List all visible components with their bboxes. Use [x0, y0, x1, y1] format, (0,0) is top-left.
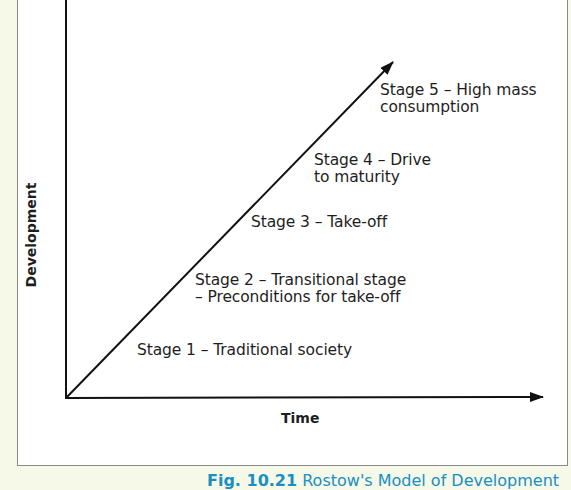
x-axis — [65, 397, 543, 398]
stage-4-line2: to maturity — [314, 169, 431, 186]
stage-3-label: Stage 3 – Take-off — [251, 214, 387, 231]
caption-text: Rostow's Model of Development — [302, 471, 559, 490]
stage-4-label: Stage 4 – Drive to maturity — [314, 152, 431, 186]
stage-1-label: Stage 1 – Traditional society — [137, 342, 352, 359]
stage-5-label: Stage 5 – High mass consumption — [380, 82, 537, 116]
stage-1-line1: Stage 1 – Traditional society — [137, 342, 352, 359]
stage-2-label: Stage 2 – Transitional stage – Precondit… — [195, 272, 406, 306]
stage-5-line1: Stage 5 – High mass — [380, 82, 537, 99]
figure-caption: Fig. 10.21 Rostow's Model of Development — [207, 471, 559, 490]
stage-3-line1: Stage 3 – Take-off — [251, 214, 387, 231]
y-axis-label: Development — [23, 183, 39, 288]
stage-2-line2: – Preconditions for take-off — [195, 289, 406, 306]
x-axis-label: Time — [281, 410, 319, 426]
stage-2-line1: Stage 2 – Transitional stage — [195, 272, 406, 289]
stage-4-line1: Stage 4 – Drive — [314, 152, 431, 169]
stage-5-line2: consumption — [380, 99, 537, 116]
caption-number: Fig. 10.21 — [207, 471, 297, 490]
